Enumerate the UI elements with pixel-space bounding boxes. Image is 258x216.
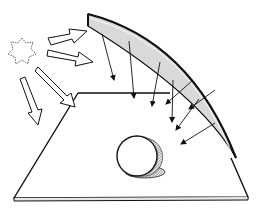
- sun-icon: [8, 38, 36, 64]
- sphere-with-shadow: [117, 136, 165, 178]
- incoming-ray-1: [48, 29, 87, 45]
- sphere: [117, 136, 157, 176]
- incoming-ray-3: [35, 67, 75, 107]
- curved-reflector: [88, 14, 236, 158]
- incoming-ray-4: [20, 77, 42, 125]
- incoming-ray-2: [47, 50, 93, 66]
- reflector-diagram: [0, 0, 258, 216]
